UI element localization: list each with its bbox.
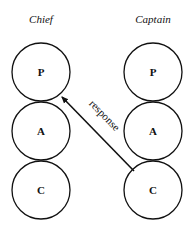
captain-child-label: C [149,184,157,196]
column-title-captain: Captain [135,13,171,25]
column-title-chief: Chief [29,13,55,25]
captain-adult-label: A [149,125,157,137]
transaction-diagram: Chief Captain P A C P A C response [0,0,196,237]
captain-parent-label: P [150,66,157,78]
chief-child-label: C [37,184,45,196]
chief-parent-label: P [38,66,45,78]
chief-adult-label: A [37,125,45,137]
